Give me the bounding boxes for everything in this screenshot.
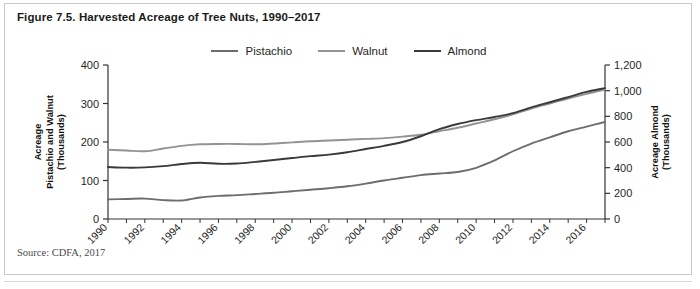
series-line-pistachio	[108, 122, 605, 201]
x-axis-tick-label: 1992	[121, 221, 146, 246]
x-axis-tick-label: 1996	[195, 221, 220, 246]
right-axis-title-line: Acreage Almond	[650, 105, 660, 179]
x-axis-tick-label: 2008	[416, 221, 441, 246]
left-axis-tick-label: 400	[81, 59, 99, 71]
right-axis-tick-label: 1,200	[614, 59, 642, 71]
x-axis-tick-label: 2006	[379, 221, 404, 246]
left-axis-title-line: Pistachio and Walnut	[45, 95, 55, 189]
left-axis-title-line: Acreage	[33, 124, 43, 161]
right-axis-tick-label: 600	[614, 136, 632, 148]
left-axis-title-line: (Thousands)	[56, 114, 66, 170]
chart-plot-area: 010020030040002004006008001,0001,2001990…	[5, 4, 693, 276]
left-axis-tick-label: 300	[81, 98, 99, 110]
line-chart: 010020030040002004006008001,0001,2001990…	[5, 4, 693, 276]
left-axis-tick-label: 100	[81, 175, 99, 187]
x-axis-tick-label: 2002	[305, 221, 330, 246]
figure-container: Figure 7.5. Harvested Acreage of Tree Nu…	[4, 3, 692, 275]
x-axis-tick-label: 1990	[84, 221, 109, 246]
x-axis-tick-label: 2016	[563, 221, 588, 246]
right-axis-tick-label: 400	[614, 162, 632, 174]
x-axis-tick-label: 2010	[453, 221, 478, 246]
series-line-almond	[108, 88, 605, 168]
right-axis-tick-label: 800	[614, 110, 632, 122]
right-axis-tick-label: 0	[614, 213, 620, 225]
x-axis-tick-label: 1994	[158, 221, 183, 246]
x-axis-tick-label: 2012	[489, 221, 514, 246]
left-axis-tick-label: 200	[81, 136, 99, 148]
x-axis-tick-label: 1998	[232, 221, 257, 246]
right-axis-tick-label: 1,000	[614, 85, 642, 97]
right-axis-title-line: (Thousands)	[661, 114, 671, 170]
x-axis-tick-label: 2000	[268, 221, 293, 246]
right-axis-title: Acreage Almond(Thousands)	[650, 105, 672, 179]
x-axis-tick-label: 2004	[342, 221, 367, 246]
left-axis-title: AcreagePistachio and Walnut(Thousands)	[33, 95, 66, 189]
series-line-walnut	[108, 90, 605, 152]
right-axis-tick-label: 200	[614, 187, 632, 199]
page-divider	[4, 281, 692, 282]
source-note: Source: CDFA, 2017	[17, 247, 105, 258]
x-axis-tick-label: 2014	[526, 221, 551, 246]
